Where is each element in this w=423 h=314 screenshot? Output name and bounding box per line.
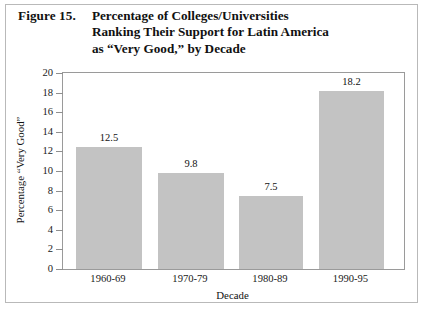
bar[interactable] xyxy=(319,91,384,269)
y-axis-tick xyxy=(56,249,63,250)
figure-title-block: Figure 15. Percentage of Colleges/Univer… xyxy=(18,8,408,57)
plot-area: 02468101214161820 12.59.87.518.2 xyxy=(62,72,405,270)
x-axis-tick-label: 1970-79 xyxy=(157,274,223,285)
y-axis-tick-label: 20 xyxy=(42,68,53,79)
y-axis-tick xyxy=(56,93,63,94)
y-axis-tick-label: 12 xyxy=(42,146,53,157)
bar[interactable] xyxy=(76,147,142,270)
bar[interactable] xyxy=(239,196,303,270)
y-axis-tick xyxy=(56,210,63,211)
figure-container: Figure 15. Percentage of Colleges/Univer… xyxy=(0,0,423,314)
y-axis-tick xyxy=(56,112,63,113)
x-axis-tick-label: 1990-95 xyxy=(318,274,383,285)
plot-inner: 02468101214161820 12.59.87.518.2 xyxy=(63,73,404,269)
y-axis-title: Percentage “Very Good” xyxy=(13,72,27,268)
y-axis-tick-label: 18 xyxy=(42,87,53,98)
figure-title-text: Percentage of Colleges/Universities Rank… xyxy=(92,8,408,57)
bar-value-label: 12.5 xyxy=(76,133,142,144)
y-axis-tick-label: 14 xyxy=(42,127,53,138)
y-axis-tick xyxy=(56,73,63,74)
y-axis-tick-label: 4 xyxy=(48,225,53,236)
y-axis-tick xyxy=(56,230,63,231)
figure-title-line-3: as “Very Good,” by Decade xyxy=(92,41,408,57)
y-axis-tick xyxy=(56,269,63,270)
bar-value-label: 7.5 xyxy=(239,182,303,193)
y-axis-tick-label: 2 xyxy=(48,244,53,255)
y-axis-tick xyxy=(56,171,63,172)
y-axis-tick-label: 6 xyxy=(48,205,53,216)
bar-value-label: 9.8 xyxy=(158,159,224,170)
y-axis-tick xyxy=(56,191,63,192)
x-axis-tick-label: 1980-89 xyxy=(238,274,302,285)
x-axis-title-label: Decade xyxy=(216,289,248,301)
bar-value-label: 18.2 xyxy=(319,77,384,88)
y-axis-tick xyxy=(56,151,63,152)
x-axis-title: Decade xyxy=(62,290,403,301)
y-axis-tick xyxy=(56,132,63,133)
y-axis-tick-label: 8 xyxy=(48,185,53,196)
figure-title-line-2: Ranking Their Support for Latin America xyxy=(92,24,408,40)
y-axis-tick-label: 10 xyxy=(42,166,53,177)
figure-title-line-1: Percentage of Colleges/Universities xyxy=(92,8,408,24)
bar[interactable] xyxy=(158,173,224,269)
y-axis-tick-label: 0 xyxy=(48,264,53,275)
figure-number-label: Figure 15. xyxy=(18,8,76,24)
y-axis-title-label: Percentage “Very Good” xyxy=(14,117,26,224)
x-axis-tick-label: 1960-69 xyxy=(75,274,141,285)
y-axis-tick-label: 16 xyxy=(42,107,53,118)
